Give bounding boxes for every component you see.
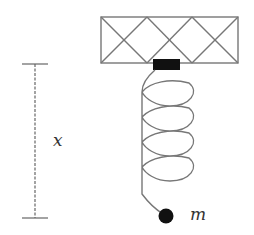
displacement-dimension xyxy=(22,64,48,218)
attachment-block xyxy=(153,59,180,70)
mass xyxy=(159,209,174,224)
spring xyxy=(142,70,194,214)
spring-mass-diagram xyxy=(0,0,254,235)
mass-label: m xyxy=(190,206,206,223)
displacement-label: x xyxy=(53,132,63,149)
ceiling-support xyxy=(101,17,238,63)
